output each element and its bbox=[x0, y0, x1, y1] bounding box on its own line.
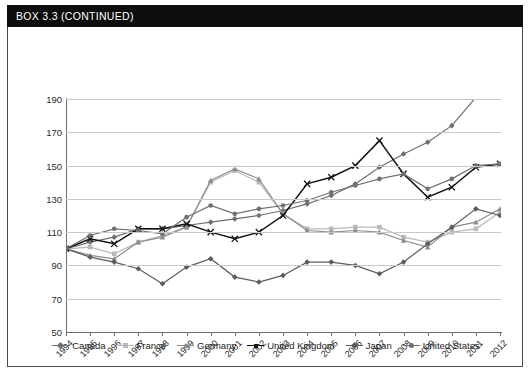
gridline bbox=[66, 299, 501, 300]
x-axis-tick-mark bbox=[379, 332, 380, 336]
data-point-marker bbox=[111, 234, 117, 240]
gridline bbox=[66, 99, 501, 100]
data-point-marker bbox=[377, 271, 383, 277]
y-axis-tick-label: 150 bbox=[46, 160, 62, 171]
data-point-marker bbox=[304, 259, 310, 265]
legend-swatch-icon bbox=[177, 341, 194, 350]
data-point-marker bbox=[280, 273, 286, 279]
data-point-marker bbox=[329, 190, 334, 195]
gridline bbox=[66, 166, 501, 167]
y-axis-tick-label: 90 bbox=[51, 260, 62, 271]
legend-label: France bbox=[137, 340, 167, 351]
x-axis-tick-mark bbox=[66, 332, 67, 336]
figure-page: BOX 3.3 (CONTINUED) 19017015013011090705… bbox=[0, 0, 530, 379]
x-axis-tick-mark bbox=[162, 332, 163, 336]
legend-item-united-states[interactable]: United States bbox=[403, 340, 480, 351]
data-point-marker bbox=[136, 266, 142, 272]
x-axis-tick-mark bbox=[404, 332, 405, 336]
gridline bbox=[66, 132, 501, 133]
legend-swatch-icon bbox=[52, 341, 69, 350]
legend-label: Canada bbox=[72, 340, 105, 351]
x-axis-tick-mark bbox=[90, 332, 91, 336]
data-point-marker bbox=[112, 227, 117, 232]
x-axis-tick-mark bbox=[235, 332, 236, 336]
chart-legend: CanadaFranceGermanyUnited KingdomJapanUn… bbox=[8, 340, 524, 351]
x-axis-line bbox=[66, 332, 502, 333]
x-axis-tick-mark bbox=[355, 332, 356, 336]
legend-item-france[interactable]: France bbox=[117, 340, 167, 351]
data-point-marker bbox=[328, 259, 334, 265]
data-point-marker bbox=[208, 203, 213, 208]
legend-swatch-icon bbox=[346, 341, 363, 350]
y-axis-tick-label: 50 bbox=[51, 327, 62, 338]
gridline bbox=[66, 265, 501, 266]
y-axis-labels: 190170150130110907050 bbox=[8, 27, 62, 367]
legend-swatch-icon bbox=[247, 341, 264, 350]
x-axis-tick-mark bbox=[307, 332, 308, 336]
x-axis-tick-mark bbox=[138, 332, 139, 336]
legend-item-germany[interactable]: Germany bbox=[177, 340, 236, 351]
x-axis-tick-mark bbox=[500, 332, 501, 336]
data-point-marker bbox=[449, 177, 454, 182]
data-point-marker bbox=[474, 227, 479, 232]
y-axis-tick-label: 190 bbox=[46, 94, 62, 105]
data-point-marker bbox=[232, 212, 237, 217]
series-line bbox=[66, 99, 500, 249]
y-axis-tick-label: 110 bbox=[47, 227, 62, 238]
box-header-title: BOX 3.3 (CONTINUED) bbox=[16, 10, 134, 22]
data-point-marker bbox=[184, 215, 189, 220]
legend-label: Germany bbox=[197, 340, 236, 351]
data-point-marker bbox=[449, 184, 455, 190]
gridline bbox=[66, 232, 501, 233]
x-axis-tick-mark bbox=[187, 332, 188, 336]
data-point-marker bbox=[257, 207, 262, 212]
data-point-marker bbox=[232, 216, 238, 222]
x-axis-tick-mark bbox=[114, 332, 115, 336]
legend-swatch-icon bbox=[403, 341, 420, 350]
plot-area bbox=[66, 99, 501, 332]
data-point-marker bbox=[88, 233, 93, 238]
x-axis-tick-mark bbox=[283, 332, 284, 336]
data-point-marker bbox=[425, 187, 430, 192]
line-chart-svg bbox=[66, 99, 501, 332]
x-axis-tick-mark bbox=[331, 332, 332, 336]
series-canada bbox=[66, 99, 501, 252]
data-point-marker bbox=[376, 138, 382, 144]
data-point-marker bbox=[377, 225, 382, 230]
data-point-marker bbox=[401, 172, 406, 177]
legend-label: United States bbox=[423, 340, 480, 351]
data-point-marker bbox=[377, 177, 382, 182]
x-axis-tick-mark bbox=[452, 332, 453, 336]
gridline bbox=[66, 199, 501, 200]
legend-item-canada[interactable]: Canada bbox=[52, 340, 105, 351]
legend-item-japan[interactable]: Japan bbox=[346, 340, 392, 351]
series-united-kingdom bbox=[66, 138, 501, 252]
series-line bbox=[66, 209, 500, 284]
legend-label: Japan bbox=[366, 340, 392, 351]
chart-figure-frame: 190170150130110907050 199419951996199719… bbox=[7, 27, 523, 367]
y-axis-tick-label: 130 bbox=[46, 193, 62, 204]
legend-swatch-icon bbox=[117, 341, 134, 350]
data-point-marker bbox=[401, 151, 407, 157]
legend-label: United Kingdom bbox=[267, 340, 335, 351]
data-point-marker bbox=[256, 279, 262, 285]
legend-item-united-kingdom[interactable]: United Kingdom bbox=[247, 340, 335, 351]
data-point-marker bbox=[88, 245, 93, 250]
x-axis-tick-mark bbox=[259, 332, 260, 336]
data-point-marker bbox=[112, 251, 117, 256]
x-axis-tick-mark bbox=[476, 332, 477, 336]
data-point-marker bbox=[256, 213, 262, 219]
data-point-marker bbox=[281, 203, 286, 208]
data-point-marker bbox=[353, 183, 358, 188]
data-point-marker bbox=[497, 206, 501, 211]
box-header: BOX 3.3 (CONTINUED) bbox=[7, 5, 523, 27]
y-axis-tick-label: 170 bbox=[46, 127, 62, 138]
y-axis-tick-label: 70 bbox=[51, 293, 62, 304]
x-axis-tick-mark bbox=[211, 332, 212, 336]
x-axis-tick-mark bbox=[428, 332, 429, 336]
data-point-marker bbox=[208, 219, 214, 225]
